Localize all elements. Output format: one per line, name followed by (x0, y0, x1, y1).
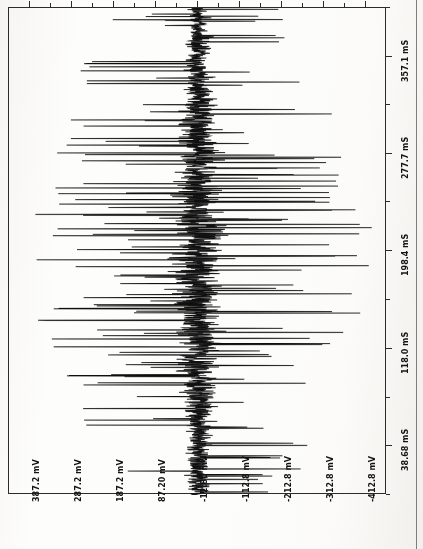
y-axis-tick-label: -112.8 mV (243, 456, 251, 502)
x-axis-minor-tick (386, 201, 390, 202)
y-axis-major-tick (281, 1, 282, 7)
x-axis-major-tick (386, 250, 392, 251)
x-axis-minor-tick (386, 104, 390, 105)
x-axis-major-tick (386, 153, 392, 154)
y-axis-major-tick (197, 1, 198, 7)
y-axis-tick-label: 287.2 mV (75, 459, 83, 502)
y-axis-minor-tick (176, 3, 177, 7)
x-axis-tick-label: 277.7 mS (402, 137, 410, 179)
x-axis-minor-tick (386, 494, 390, 495)
y-axis-minor-tick (218, 3, 219, 7)
y-axis-major-tick (113, 1, 114, 7)
y-axis-major-tick (323, 1, 324, 7)
y-axis-major-tick (29, 1, 30, 7)
y-axis-minor-tick (260, 3, 261, 7)
x-axis-major-tick (386, 56, 392, 57)
waveform-trace (9, 8, 387, 495)
x-axis-minor-tick (386, 7, 390, 8)
x-axis-minor-tick (386, 397, 390, 398)
x-axis-tick-label: 38.68 mS (402, 429, 410, 471)
x-axis-minor-tick (386, 299, 390, 300)
scanned-plot-page: 38.68 mS118.0 mS198.4 mS277.7 mS357.1 mS… (0, 0, 423, 549)
x-axis-tick-label: 198.4 mS (402, 234, 410, 276)
y-axis-tick-label: -12.80 mV (201, 456, 209, 502)
y-axis-minor-tick (134, 3, 135, 7)
y-axis-minor-tick (302, 3, 303, 7)
y-axis-major-tick (155, 1, 156, 7)
y-axis-tick-label: 387.2 mV (33, 459, 41, 502)
x-axis-tick-label: 118.0 mS (402, 332, 410, 374)
y-axis-tick-label: 187.2 mV (117, 459, 125, 502)
y-axis-tick-label: -412.8 mV (369, 456, 377, 502)
y-axis-major-tick (365, 1, 366, 7)
x-axis-tick-label: 357.1 mS (402, 40, 410, 82)
x-axis-major-tick (386, 445, 392, 446)
page-edge-rule (416, 0, 417, 549)
y-axis-tick-label: -312.8 mV (327, 456, 335, 502)
y-axis-minor-tick (92, 3, 93, 7)
y-axis-major-tick (239, 1, 240, 7)
plot-frame (8, 7, 386, 494)
x-axis-major-tick (386, 348, 392, 349)
y-axis-tick-label: 87.20 mV (159, 459, 167, 502)
y-axis-tick-label: -212.8 mV (285, 456, 293, 502)
y-axis-minor-tick (344, 3, 345, 7)
y-axis-major-tick (71, 1, 72, 7)
y-axis-minor-tick (50, 3, 51, 7)
